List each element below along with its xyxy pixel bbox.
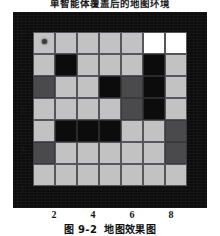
map-cell-visited: [121, 98, 143, 120]
y-tick-5: 5: [13, 106, 25, 116]
map-cell-free: [121, 32, 143, 54]
map-cell-obstacle: [143, 54, 165, 76]
map-cell-free: [77, 98, 99, 120]
map-cell-free: [33, 120, 55, 142]
map-cell-visited: [121, 76, 143, 98]
map-cell-free: [55, 164, 77, 186]
map-cell-free: [77, 54, 99, 76]
map-cell-free: [121, 142, 143, 164]
map-cell-covered: [143, 32, 165, 54]
map-cell-obstacle: [99, 120, 121, 142]
map-cell-free: [99, 54, 121, 76]
map-cell-free: [143, 142, 165, 164]
map-cell-free: [99, 32, 121, 54]
figure-caption: 图 9-2地图效果图: [0, 221, 220, 236]
map-cell-free: [99, 164, 121, 186]
map-cell-obstacle: [143, 98, 165, 120]
map-cell-free: [165, 76, 187, 98]
y-tick-9: 9: [13, 29, 25, 39]
map-cell-free: [121, 54, 143, 76]
map-cell-free: [99, 142, 121, 164]
figure-caption-number: 图 9-2: [64, 224, 98, 235]
map-cell-free: [143, 164, 165, 186]
agent-start-marker-icon: [42, 39, 47, 44]
map-cell-free: [165, 164, 187, 186]
map-cell-obstacle: [143, 76, 165, 98]
map-cell-free: [77, 32, 99, 54]
map-cell-obstacle: [99, 76, 121, 98]
x-tick-2: 2: [47, 210, 61, 220]
figure-caption-text: 地图效果图: [104, 224, 156, 235]
map-cell-visited: [33, 76, 55, 98]
y-tick-7: 7: [13, 67, 25, 77]
map-cell-free: [33, 54, 55, 76]
map-cell-free: [121, 120, 143, 142]
map-cell-obstacle: [55, 54, 77, 76]
map-cell-free: [99, 98, 121, 120]
map-grid: [33, 32, 187, 186]
y-tick-3: 3: [13, 145, 25, 155]
x-tick-4: 4: [86, 210, 100, 220]
x-tick-8: 8: [164, 210, 178, 220]
map-cell-free: [77, 76, 99, 98]
map-cell-free: [143, 120, 165, 142]
figure-title: 单智能体覆盖后的地图环境: [0, 0, 220, 10]
map-cell-free: [55, 98, 77, 120]
figure-container: 单智能体覆盖后的地图环境 9 7 5 3 1 2 4 6 8 图 9-2地图效果…: [0, 0, 220, 236]
map-cell-free: [77, 164, 99, 186]
y-tick-1: 1: [13, 184, 25, 194]
map-cell-free: [33, 98, 55, 120]
map-cell-covered: [165, 32, 187, 54]
map-cell-free: [55, 142, 77, 164]
map-cell-visited: [165, 120, 187, 142]
map-cell-obstacle: [55, 120, 77, 142]
x-tick-6: 6: [125, 210, 139, 220]
map-cell-obstacle: [77, 120, 99, 142]
map-cell-free: [165, 54, 187, 76]
map-cell-free: [55, 76, 77, 98]
map-cell-free: [33, 32, 55, 54]
map-plot-panel: 9 7 5 3 1: [13, 12, 207, 208]
map-cell-free: [33, 164, 55, 186]
map-cell-visited: [33, 142, 55, 164]
map-cell-free: [121, 164, 143, 186]
map-cell-free: [77, 142, 99, 164]
map-cell-free: [165, 98, 187, 120]
map-cell-visited: [165, 142, 187, 164]
map-cell-free: [55, 32, 77, 54]
